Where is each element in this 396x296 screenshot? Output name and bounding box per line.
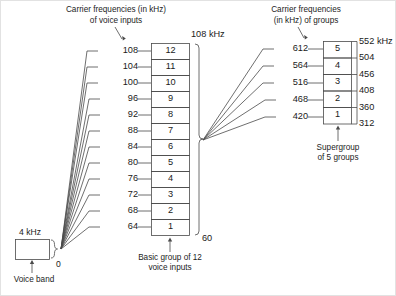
group-channel-cell: 10 — [151, 77, 190, 87]
diagram-canvas: Carrier frequencies (in kHz) of voice in… — [0, 0, 396, 296]
group-carrier-label: 76 — [96, 173, 138, 184]
supergroup-carrier-label: 564 — [266, 60, 308, 71]
group-carrier-label: 92 — [96, 109, 138, 120]
group-carrier-label: 88 — [96, 125, 138, 136]
supergroup-cell: 3 — [323, 76, 352, 86]
group-caption-line2: voice inputs — [120, 263, 220, 273]
group-carrier-label: 84 — [96, 141, 138, 152]
supergroup-edge-label: 360 — [359, 102, 374, 113]
supergroup-carrier-label: 420 — [266, 111, 308, 122]
supergroup-edge-label: 504 — [359, 52, 374, 63]
voice-band-bottom-label: 0 — [56, 259, 61, 269]
supergroup-edge-label: 552 kHz — [359, 36, 393, 47]
voice-to-group-fan — [61, 51, 100, 249]
supergroup-edge-label: 456 — [359, 69, 374, 80]
supergroup-cell: 5 — [323, 43, 352, 53]
voice-band-box — [16, 240, 50, 260]
supergroup-header-line2: (in kHz) of groups — [241, 16, 371, 26]
group-channel-cell: 5 — [151, 157, 190, 167]
group-channel-cell: 4 — [151, 173, 190, 183]
group-carrier-label: 72 — [96, 189, 138, 200]
group-caption-line1: Basic group of 12 — [120, 253, 220, 263]
voice-band-caption: Voice band — [1, 275, 67, 285]
group-header-line2: of voice inputs — [31, 16, 201, 26]
supergroup-edge-label: 312 — [359, 118, 374, 129]
supergroup-caption-line1: Supergroup — [288, 143, 388, 153]
group-header-line1: Carrier frequencies (in kHz) — [31, 5, 201, 15]
supergroup-header-pointer — [298, 27, 304, 38]
group-channel-cell: 1 — [151, 221, 190, 231]
group-channel-cell: 12 — [151, 45, 190, 55]
group-channel-cell: 2 — [151, 205, 190, 215]
group-channel-cell: 11 — [151, 61, 190, 71]
group-carrier-label: 100 — [96, 77, 138, 88]
supergroup-caption-line2: of 5 groups — [288, 153, 388, 163]
group-carrier-label: 104 — [96, 61, 138, 72]
group-channel-cell: 9 — [151, 93, 190, 103]
group-channel-cell: 8 — [151, 109, 190, 119]
group-carrier-label: 80 — [96, 157, 138, 168]
supergroup-carrier-label: 468 — [266, 94, 308, 105]
supergroup-carrier-label: 612 — [266, 43, 308, 54]
supergroup-carrier-connectors — [308, 49, 323, 117]
supergroup-cell: 4 — [323, 60, 352, 70]
group-header-pointer — [115, 27, 122, 39]
supergroup-carrier-label: 516 — [266, 77, 308, 88]
group-carrier-label: 68 — [96, 205, 138, 216]
group-carrier-label: 96 — [96, 93, 138, 104]
voice-band-top-label: 4 kHz — [19, 227, 41, 237]
supergroup-edge-label: 408 — [359, 85, 374, 96]
supergroup-header-line1: Carrier frequencies — [241, 5, 371, 15]
group-carrier-connectors — [138, 51, 151, 227]
supergroup-edge-scale — [352, 42, 358, 125]
supergroup-cell: 2 — [323, 93, 352, 103]
group-channel-cell: 3 — [151, 189, 190, 199]
group-top-edge-label: 108 kHz — [191, 29, 225, 40]
group-carrier-label: 108 — [96, 45, 138, 56]
group-carrier-label: 64 — [96, 221, 138, 232]
group-bottom-edge-label: 60 — [202, 233, 212, 244]
supergroup-cell: 1 — [323, 109, 352, 119]
group-channel-cell: 6 — [151, 141, 190, 151]
group-channel-cell: 7 — [151, 125, 190, 135]
group-band-brace — [195, 44, 203, 235]
